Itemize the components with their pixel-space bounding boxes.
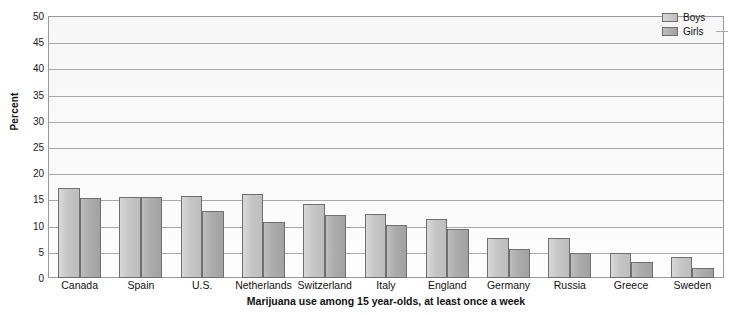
legend-swatch-boys-icon [662,13,678,22]
bar[interactable] [263,222,284,278]
bar-group [610,17,653,278]
legend-swatch-girls-icon [662,27,678,36]
bar[interactable] [631,262,652,278]
bar[interactable] [80,198,101,278]
bar-chart: Percent 50454035302520151050 CanadaSpain… [0,0,736,314]
y-tick-label: 45 [4,37,44,48]
bar[interactable] [692,268,713,278]
legend-rule [716,31,728,32]
bar[interactable] [671,257,692,278]
x-tick-label: Switzerland [298,279,352,291]
bar-group [119,17,162,278]
bar[interactable] [570,253,591,278]
bars-layer [49,17,723,278]
bar-group [181,17,224,278]
y-tick-label: 30 [4,115,44,126]
y-axis-ticks: 50454035302520151050 [0,16,44,278]
bar[interactable] [426,219,447,278]
x-axis-title: Marijuana use among 15 year-olds, at lea… [48,295,724,307]
x-axis-ticks: CanadaSpainU.S.NetherlandsSwitzerlandIta… [48,279,724,295]
x-tick-label: U.S. [192,279,212,291]
bar-group [487,17,530,278]
y-tick-label: 10 [4,220,44,231]
y-tick-label: 40 [4,63,44,74]
bar[interactable] [386,225,407,278]
legend-label-boys: Boys [683,12,705,23]
bar[interactable] [365,214,386,278]
x-tick-label: Greece [614,279,648,291]
bar[interactable] [447,229,468,278]
bar-group [426,17,469,278]
bar[interactable] [141,197,162,278]
bar-group [58,17,101,278]
bar[interactable] [325,215,346,278]
bar[interactable] [487,238,508,278]
x-tick-label: Sweden [673,279,711,291]
y-tick-label: 20 [4,168,44,179]
bar[interactable] [242,194,263,278]
x-tick-label: Italy [376,279,395,291]
y-tick-label: 35 [4,89,44,100]
bar[interactable] [509,249,530,278]
bar-group [548,17,591,278]
x-tick-label: Germany [487,279,530,291]
y-tick-label: 15 [4,194,44,205]
legend-label-girls: Girls [683,26,704,37]
legend-item-boys[interactable]: Boys [662,11,726,23]
y-tick-label: 5 [4,246,44,257]
y-tick-label: 0 [4,273,44,284]
bar-group [242,17,285,278]
legend: Boys Girls [662,11,726,39]
bar[interactable] [202,211,223,278]
x-tick-label: Netherlands [235,279,292,291]
bar-group [303,17,346,278]
bar-group [365,17,408,278]
bar[interactable] [548,238,569,278]
bar[interactable] [119,197,140,278]
x-tick-label: Canada [61,279,98,291]
bar[interactable] [303,204,324,278]
y-tick-label: 50 [4,11,44,22]
x-tick-label: Russia [554,279,586,291]
bar[interactable] [58,188,79,278]
x-tick-label: Spain [127,279,154,291]
bar[interactable] [181,196,202,278]
y-tick-label: 25 [4,142,44,153]
bar-group [671,17,714,278]
x-tick-label: England [428,279,467,291]
bar[interactable] [610,253,631,278]
